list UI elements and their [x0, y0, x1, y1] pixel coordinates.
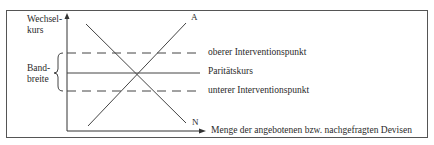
band-label-1: Band- [27, 63, 50, 74]
lower-intervention-label: unterer Interventionspunkt [208, 85, 309, 96]
upper-intervention-label: oberer Interventionspunkt [208, 47, 306, 58]
y-axis-label-1: Wechsel- [27, 14, 62, 25]
supply-curve-label: A [191, 12, 198, 23]
x-axis-label: Menge der angebotenen bzw. nachgefragten… [211, 125, 412, 136]
y-axis-label-2: kurs [27, 25, 43, 36]
band-brace [54, 53, 63, 91]
y-axis-arrow-icon [65, 13, 70, 19]
demand-curve-label: N [192, 117, 199, 128]
x-axis-arrow-icon [199, 129, 206, 134]
parity-label: Paritätskurs [208, 66, 253, 77]
band-label-2: breite [27, 74, 49, 85]
